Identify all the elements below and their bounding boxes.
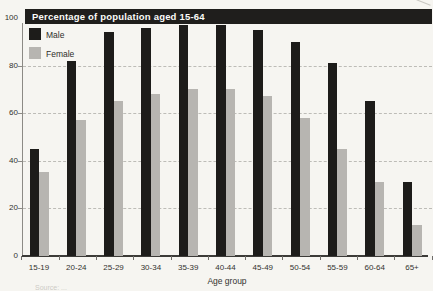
x-tick-4 — [171, 256, 172, 260]
x-label-35-39: 35-39 — [170, 263, 206, 272]
bar-female-15-19 — [39, 172, 49, 255]
bar-male-35-39 — [179, 25, 189, 255]
y-tick-label-80: 80 — [0, 61, 18, 70]
chart-title-banner: Percentage of population aged 15-64 — [25, 9, 432, 24]
y-tick-label-20: 20 — [0, 203, 18, 212]
legend-male-swatch — [29, 28, 41, 40]
bar-male-65+ — [403, 182, 413, 256]
x-tick-1 — [59, 256, 60, 260]
y-tick-label-100: 100 — [0, 13, 18, 22]
x-label-55-59: 55-59 — [319, 263, 355, 272]
bar-male-15-19 — [30, 149, 40, 256]
x-label-15-19: 15-19 — [21, 263, 57, 272]
bar-female-65+ — [412, 225, 422, 256]
legend-female-label: Female — [46, 49, 74, 59]
x-tick-7 — [282, 256, 283, 260]
bar-female-45-49 — [263, 96, 273, 255]
x-label-20-24: 20-24 — [58, 263, 94, 272]
bar-male-45-49 — [253, 30, 263, 256]
bar-female-60-64 — [375, 182, 385, 256]
x-tick-11 — [432, 256, 433, 260]
bar-male-30-34 — [141, 28, 151, 256]
bar-male-60-64 — [365, 101, 375, 255]
bar-female-20-24 — [76, 120, 86, 255]
bar-female-40-44 — [226, 89, 236, 255]
x-tick-3 — [133, 256, 134, 260]
y-tick-label-0: 0 — [0, 251, 18, 260]
y-axis-line — [22, 23, 23, 256]
x-label-25-29: 25-29 — [96, 263, 132, 272]
bar-female-30-34 — [151, 94, 161, 256]
y-tick-label-40: 40 — [0, 156, 18, 165]
y-tick-40 — [18, 161, 22, 162]
bar-female-25-29 — [114, 101, 124, 255]
x-tick-10 — [394, 256, 395, 260]
x-tick-8 — [320, 256, 321, 260]
x-tick-5 — [208, 256, 209, 260]
x-label-50-54: 50-54 — [282, 263, 318, 272]
x-label-30-34: 30-34 — [133, 263, 169, 272]
x-tick-2 — [96, 256, 97, 260]
scan-artifact — [416, 0, 430, 6]
grid-line-80 — [23, 66, 432, 67]
legend-male-label: Male — [46, 30, 64, 40]
y-tick-20 — [18, 208, 22, 209]
bar-female-55-59 — [337, 149, 347, 256]
x-tick-6 — [245, 256, 246, 260]
x-label-65+: 65+ — [394, 263, 430, 272]
bar-male-20-24 — [67, 61, 77, 256]
x-tick-0 — [21, 256, 22, 260]
source-note: Source: ... — [35, 284, 215, 291]
x-label-60-64: 60-64 — [357, 263, 393, 272]
chart-title: Percentage of population aged 15-64 — [32, 11, 205, 22]
x-label-45-49: 45-49 — [245, 263, 281, 272]
bar-male-50-54 — [291, 42, 301, 256]
bar-male-55-59 — [328, 63, 338, 255]
y-tick-80 — [18, 66, 22, 67]
y-tick-60 — [18, 113, 22, 114]
bar-female-35-39 — [188, 89, 198, 255]
y-tick-label-60: 60 — [0, 108, 18, 117]
x-tick-9 — [357, 256, 358, 260]
x-label-40-44: 40-44 — [208, 263, 244, 272]
bar-male-40-44 — [216, 25, 226, 255]
bar-male-25-29 — [104, 32, 114, 255]
bar-female-50-54 — [300, 118, 310, 256]
legend-female-swatch — [29, 47, 41, 59]
